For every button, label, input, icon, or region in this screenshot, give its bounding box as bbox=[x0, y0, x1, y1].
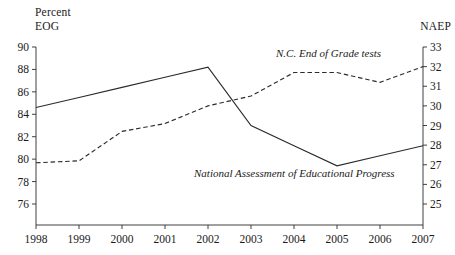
x-axis-tick-label: 2002 bbox=[197, 233, 220, 245]
left-axis-tick-label: 86 bbox=[18, 86, 30, 98]
series-lines bbox=[36, 67, 423, 166]
right-axis-tick-label: 32 bbox=[430, 61, 442, 73]
x-axis-tick-label: 2000 bbox=[111, 233, 134, 245]
right-axis-tick-label: 33 bbox=[430, 41, 442, 53]
x-axis-tick-label: 2003 bbox=[240, 233, 263, 245]
chart-figure: Percent EOG NAEP N.C. End of Grade tests… bbox=[0, 0, 455, 255]
left-axis-tick-label: 84 bbox=[18, 108, 30, 120]
x-axis-tick-label: 2004 bbox=[283, 233, 306, 245]
x-axis: 1998199920002001200220032004200520062007 bbox=[25, 225, 435, 245]
right-axis-tick-label: 28 bbox=[430, 139, 442, 151]
right-axis-tick-label: 31 bbox=[430, 80, 442, 92]
right-axis-tick-label: 25 bbox=[430, 198, 442, 210]
right-axis-tick-label: 29 bbox=[430, 120, 442, 132]
left-axis-tick-label: 76 bbox=[18, 198, 30, 210]
plot-area: 9088868482807876 333231302928272625 1998… bbox=[0, 0, 455, 255]
x-axis-tick-label: 2006 bbox=[369, 233, 392, 245]
left-axis-tick-label: 82 bbox=[18, 131, 30, 143]
right-axis-tick-label: 26 bbox=[430, 178, 442, 190]
left-axis-tick-label: 80 bbox=[18, 153, 30, 165]
x-axis-tick-label: 1999 bbox=[68, 233, 91, 245]
left-axis-tick-label: 90 bbox=[18, 41, 30, 53]
right-axis: 333231302928272625 bbox=[423, 41, 442, 225]
right-axis-tick-label: 30 bbox=[430, 100, 442, 112]
x-axis-tick-label: 1998 bbox=[25, 233, 48, 245]
x-axis-tick-label: 2007 bbox=[412, 233, 435, 245]
left-axis-tick-label: 88 bbox=[18, 63, 30, 75]
right-axis-tick-label: 27 bbox=[430, 159, 442, 171]
x-axis-tick-label: 2001 bbox=[154, 233, 177, 245]
left-axis-tick-label: 78 bbox=[18, 176, 30, 188]
x-axis-tick-label: 2005 bbox=[326, 233, 349, 245]
series-line-naep bbox=[36, 67, 423, 163]
left-axis: 9088868482807876 bbox=[18, 41, 37, 225]
